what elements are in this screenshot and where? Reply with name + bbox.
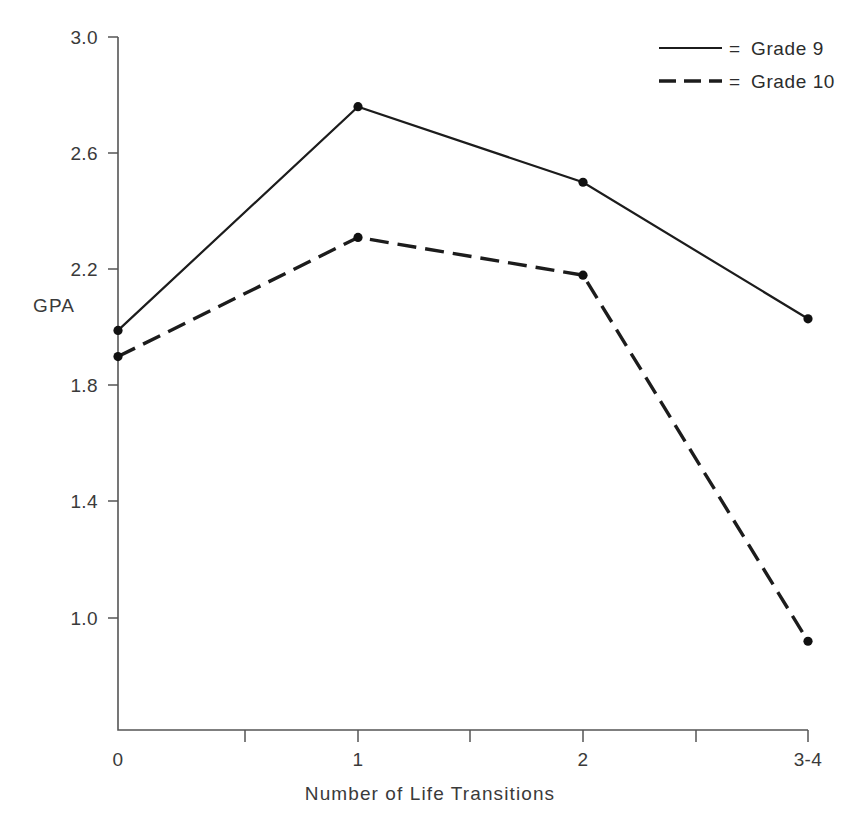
y-axis-title: GPA bbox=[33, 295, 75, 316]
series-line-grade-10 bbox=[118, 237, 808, 641]
legend-label-grade-10: Grade 10 bbox=[751, 71, 835, 92]
x-axis-title: Number of Life Transitions bbox=[305, 783, 555, 804]
y-tick-label: 2.6 bbox=[70, 143, 98, 164]
y-tick-label: 3.0 bbox=[70, 27, 98, 48]
x-tick-label: 2 bbox=[578, 749, 589, 770]
y-tick-label: 1.0 bbox=[70, 608, 98, 629]
data-point-marker bbox=[578, 271, 587, 280]
y-tick-label: 1.8 bbox=[70, 375, 98, 396]
x-tick-labels: 0 1 2 3-4 bbox=[113, 749, 823, 770]
y-tick-label: 1.4 bbox=[70, 491, 98, 512]
data-point-marker bbox=[353, 233, 362, 242]
legend-label-grade-9: Grade 9 bbox=[751, 38, 824, 59]
line-chart: 3.0 2.6 2.2 1.8 1.4 1.0 GPA 0 1 2 3-4 Nu… bbox=[0, 0, 846, 818]
data-point-marker bbox=[803, 637, 812, 646]
series-markers-grade-10 bbox=[113, 233, 812, 646]
x-tick-label: 1 bbox=[353, 749, 364, 770]
axes-group bbox=[108, 37, 808, 742]
series-line-grade-9 bbox=[118, 107, 808, 331]
legend: = Grade 9 = Grade 10 bbox=[659, 38, 835, 92]
y-tick-labels: 3.0 2.6 2.2 1.8 1.4 1.0 bbox=[70, 27, 98, 629]
series-markers-grade-9 bbox=[113, 102, 812, 335]
data-point-marker bbox=[578, 178, 587, 187]
legend-equals-sign-grade-10: = bbox=[729, 71, 741, 92]
legend-equals-sign-grade-9: = bbox=[729, 38, 741, 59]
x-tick-label: 0 bbox=[113, 749, 124, 770]
series-grade-9 bbox=[113, 102, 812, 335]
chart-figure: 3.0 2.6 2.2 1.8 1.4 1.0 GPA 0 1 2 3-4 Nu… bbox=[0, 0, 846, 818]
data-point-marker bbox=[803, 314, 812, 323]
x-tick-label: 3-4 bbox=[794, 749, 823, 770]
data-point-marker bbox=[353, 102, 362, 111]
y-tick-label: 2.2 bbox=[70, 259, 98, 280]
series-grade-10 bbox=[113, 233, 812, 646]
data-point-marker bbox=[113, 352, 122, 361]
x-tick-marks bbox=[245, 730, 808, 742]
data-point-marker bbox=[113, 326, 122, 335]
